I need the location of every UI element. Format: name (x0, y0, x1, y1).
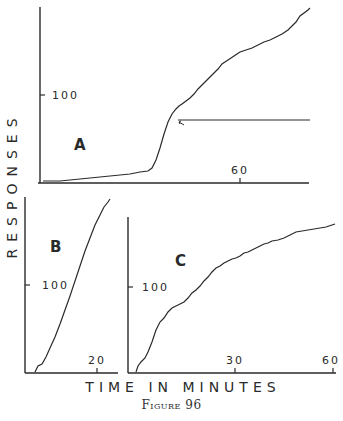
panel-b-y-tick-label: 100 (42, 279, 69, 292)
panel-c-x-tick-30-label: 30 (226, 354, 244, 367)
panel-a: 100 60 A (38, 7, 310, 183)
panel-c-y-tick-label: 100 (142, 281, 169, 294)
panel-c-title: C (175, 252, 186, 270)
y-axis-label: RESPONSES (4, 111, 20, 258)
panel-a-x-tick-label: 60 (231, 164, 249, 177)
x-axis-label: TIME IN MINUTES (84, 379, 280, 395)
panel-b-x-tick-label: 20 (88, 354, 106, 367)
figure-caption: Figure 96 (0, 398, 343, 412)
figure-96: RESPONSES 100 60 A 100 20 B 100 30 60 C (0, 0, 343, 421)
panel-b-title: B (50, 238, 61, 256)
panel-c-curve (136, 224, 335, 372)
panel-b: 100 20 B (25, 197, 118, 373)
panel-a-arrow (179, 121, 184, 125)
panel-a-curve (43, 8, 310, 181)
panel-c: 100 30 60 C (128, 217, 340, 373)
panel-a-y-tick-label: 100 (52, 89, 79, 102)
panel-a-title: A (74, 136, 86, 154)
panel-c-x-tick-60-label: 60 (322, 354, 340, 367)
